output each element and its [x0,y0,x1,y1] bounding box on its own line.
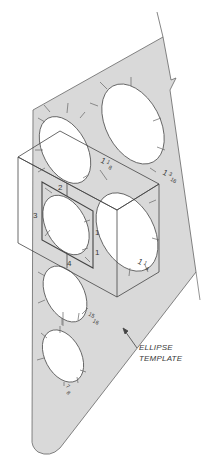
callout-label-line1: ELLIPSE [139,343,173,352]
label-edge-right-upper: 1 [95,228,100,237]
label-edge-right-lower: 1 [95,248,100,257]
label-edge-left: 3 [33,211,38,220]
ellipse-template-figure: 2 3 1 1 4 1 1 8 1 3 16 1 1 4 15 16 7 8 [0,0,205,459]
template-edge-extension [196,272,200,300]
break-line [157,12,163,37]
callout-label-line2: TEMPLATE [139,354,183,363]
label-edge-bottom: 4 [67,259,72,268]
label-edge-top: 2 [58,183,63,192]
